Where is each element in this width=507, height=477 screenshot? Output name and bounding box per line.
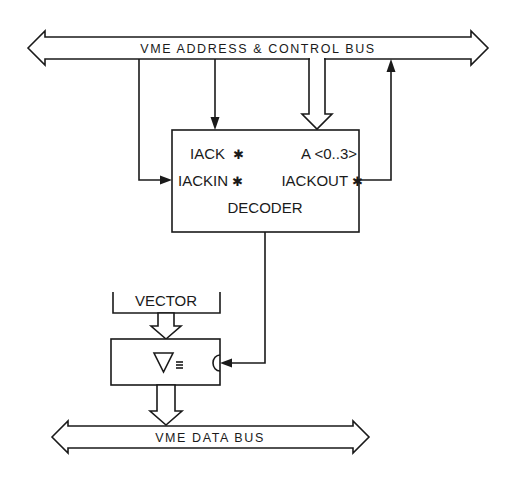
data-bus: VME DATA BUS [52, 421, 369, 453]
active-low-asterisk-icon: ✱ [232, 174, 243, 189]
arrowhead-icon [387, 59, 396, 72]
address-control-bus: VME ADDRESS & CONTROL BUS [28, 31, 488, 65]
svg-text:IACK ✱: IACK ✱ [190, 145, 244, 162]
decoder-block: IACK ✱ A <0..3> IACKIN ✱ IACKOUT ✱ DECOD… [172, 130, 363, 232]
iackout-pin-label: IACKOUT [281, 172, 348, 189]
decoder-label: DECODER [227, 199, 302, 216]
vector-wide-arrow [151, 313, 181, 339]
iackin-connection [139, 59, 172, 185]
vector-label: VECTOR [135, 292, 197, 309]
svg-text:IACKIN ✱: IACKIN ✱ [178, 172, 243, 189]
arrowhead-icon [220, 359, 232, 368]
iack-pin-label: IACK [190, 145, 225, 162]
data-wide-arrow [150, 385, 182, 425]
active-low-asterisk-icon: ✱ [233, 147, 244, 162]
address-bus-label: VME ADDRESS & CONTROL BUS [140, 42, 375, 56]
arrowhead-icon [160, 176, 172, 185]
iackin-pin-label: IACKIN [178, 172, 228, 189]
vector-source: VECTOR [113, 292, 220, 313]
arrowhead-icon [211, 117, 220, 130]
address-pin-label: A <0..3> [301, 145, 357, 162]
enable-connection [220, 232, 265, 368]
vme-interrupt-vector-diagram: VME ADDRESS & CONTROL BUS IACK ✱ A <0..3… [0, 0, 507, 477]
tristate-buffer-block [111, 339, 220, 385]
iack-connection [211, 59, 220, 130]
address-wide-arrow [302, 59, 332, 129]
svg-text:IACKOUT ✱: IACKOUT ✱ [281, 172, 363, 189]
iackout-connection [359, 59, 396, 180]
data-bus-label: VME DATA BUS [155, 431, 265, 445]
active-low-asterisk-icon: ✱ [352, 174, 363, 189]
